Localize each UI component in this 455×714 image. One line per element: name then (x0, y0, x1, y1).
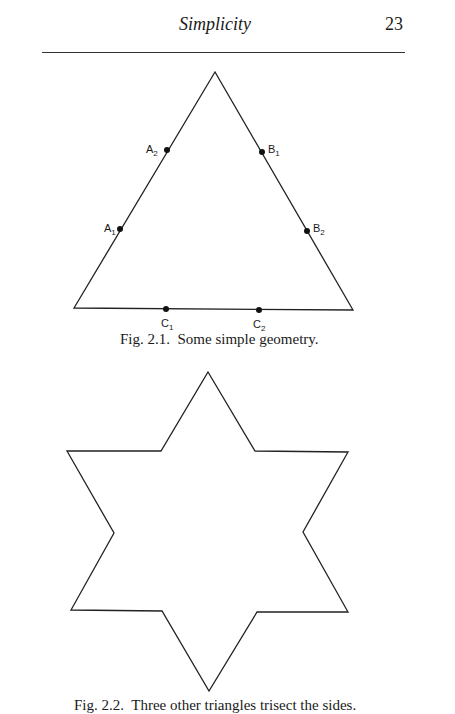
figure-2-2-caption: Fig. 2.2. Three other triangles trisect … (74, 697, 356, 714)
label-a1: A1 (104, 222, 116, 237)
label-a2: A2 (146, 143, 158, 158)
label-b2: B2 (313, 222, 325, 237)
point-a2 (164, 147, 170, 153)
point-b2 (304, 228, 310, 234)
point-c2 (256, 307, 262, 313)
label-b1: B1 (268, 143, 280, 158)
label-c1: C1 (161, 317, 174, 332)
hexagram-figure (67, 372, 348, 691)
trisection-points: A2B1A1B2C1C2 (104, 143, 325, 333)
point-c1 (163, 306, 169, 312)
triangle-figure (74, 72, 353, 310)
figure-2-1-caption: Fig. 2.1. Some simple geometry. (120, 331, 319, 348)
point-a1 (117, 226, 123, 232)
point-b1 (259, 149, 265, 155)
